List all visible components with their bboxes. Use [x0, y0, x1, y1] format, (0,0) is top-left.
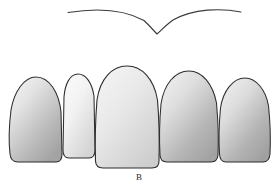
tooth-left-canine: [9, 77, 62, 162]
dental-figure-svg: [0, 0, 278, 189]
dental-figure-root: B: [0, 0, 278, 189]
tooth-central-incisors: [95, 66, 159, 168]
figure-caption: B: [0, 172, 278, 182]
tooth-right-lateral-incisor: [160, 71, 218, 162]
smile-line-curve: [68, 10, 241, 34]
tooth-left-lateral-incisor: [63, 74, 95, 158]
tooth-right-canine: [219, 78, 270, 162]
